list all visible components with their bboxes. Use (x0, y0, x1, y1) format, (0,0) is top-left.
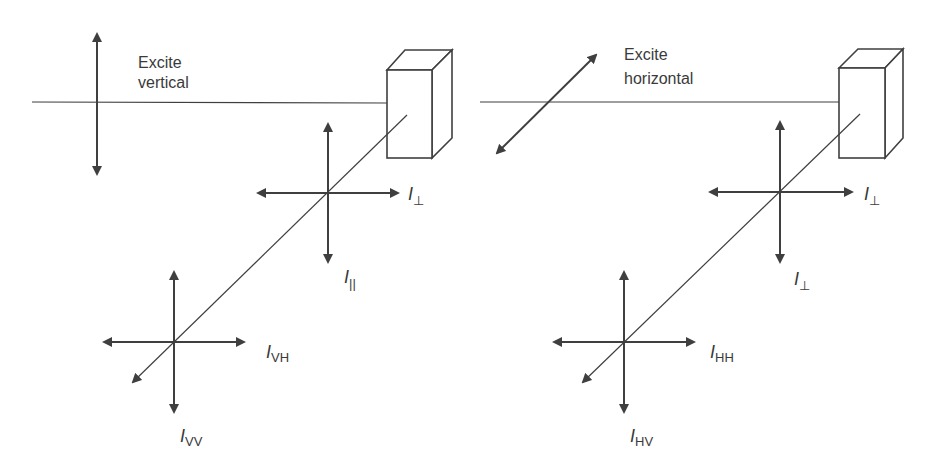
polarization-diagram: Excite vertical I⊥ I|| IVH IVV (0, 0, 936, 464)
label-i-perp: I⊥ (408, 184, 424, 208)
panel-excite-horizontal: Excite horizontal I⊥ I⊥ IHH IHV (480, 46, 903, 449)
sample-cuvette-icon (387, 50, 452, 158)
excite-label-line2: horizontal (624, 70, 693, 87)
horizontal-polarization-arrow-icon (497, 55, 596, 153)
label-i-vh: IVH (266, 342, 289, 365)
excite-label-line1: Excite (138, 54, 182, 71)
panel-excite-vertical: Excite vertical I⊥ I|| IVH IVV (32, 34, 452, 449)
sample-cuvette-icon (839, 49, 903, 158)
far-analyzer-cross (104, 272, 244, 412)
excitation-beam (32, 102, 387, 103)
excite-label-line1: Excite (624, 46, 668, 63)
label-i-parallel: I|| (344, 267, 356, 291)
far-analyzer-cross (554, 272, 694, 412)
label-i-hv: IHV (630, 426, 653, 449)
label-i-perp-lower: I⊥ (794, 269, 810, 293)
label-i-vv: IVV (180, 426, 203, 449)
label-i-perp: I⊥ (864, 184, 880, 208)
excite-label-line2: vertical (138, 74, 189, 91)
label-i-hh: IHH (710, 342, 734, 365)
